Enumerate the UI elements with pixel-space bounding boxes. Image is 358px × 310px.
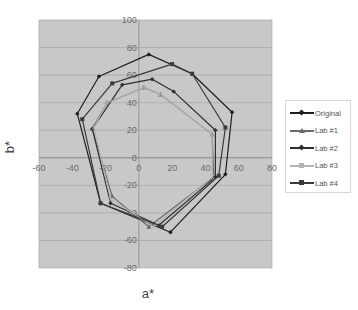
legend-label: Lab #1	[315, 126, 338, 135]
legend-line-marker-icon	[290, 108, 314, 118]
y-tick-label: 100	[122, 15, 137, 25]
y-tick-label: -80	[124, 263, 137, 273]
legend-label: Lab #4	[315, 179, 338, 188]
y-tick-label: 20	[127, 125, 137, 135]
legend-label: Lab #2	[315, 144, 338, 153]
x-tick-label: 60	[234, 163, 244, 173]
data-point-marker	[160, 225, 164, 229]
legend-line-marker-icon	[290, 178, 314, 188]
data-point-marker	[170, 62, 174, 66]
data-point-marker	[110, 81, 114, 85]
x-tick-label: 80	[267, 163, 277, 173]
y-tick-label: -60	[124, 235, 137, 245]
x-tick-label: -40	[66, 163, 79, 173]
x-tick-label: -60	[32, 163, 45, 173]
data-point-marker	[99, 201, 103, 205]
data-point-marker	[217, 174, 221, 178]
legend-item: Lab #1	[290, 125, 338, 137]
x-tick-label: 0	[136, 163, 141, 173]
data-point-marker	[80, 117, 84, 121]
y-axis-title: b*	[2, 141, 17, 153]
legend-item: Original	[290, 107, 341, 119]
legend-line-marker-icon	[290, 126, 314, 136]
x-axis-title: a*	[142, 286, 154, 301]
legend-line-marker-icon	[290, 143, 314, 153]
legend-label: Original	[315, 109, 341, 118]
y-tick-label: 0	[132, 153, 137, 163]
y-tick-label: 40	[127, 98, 137, 108]
legend-item: Lab #2	[290, 142, 338, 154]
legend: OriginalLab #1Lab #2Lab #3Lab #4	[285, 100, 351, 193]
x-tick-label: 20	[167, 163, 177, 173]
data-point-marker	[190, 72, 194, 76]
legend-line-marker-icon	[290, 161, 314, 171]
legend-label: Lab #3	[315, 161, 338, 170]
data-point-marker	[223, 125, 227, 129]
y-tick-label: -20	[124, 180, 137, 190]
x-tick-label: 40	[200, 163, 210, 173]
legend-item: Lab #4	[290, 177, 338, 189]
y-tick-label: 80	[127, 43, 137, 53]
legend-item: Lab #3	[290, 160, 338, 172]
